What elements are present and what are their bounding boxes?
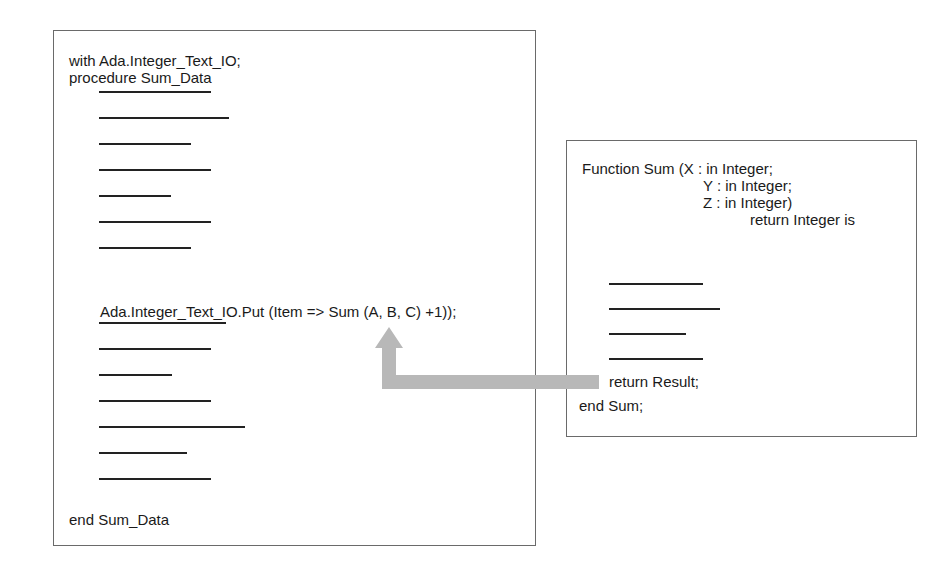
return-flow-arrow-icon <box>0 0 948 576</box>
